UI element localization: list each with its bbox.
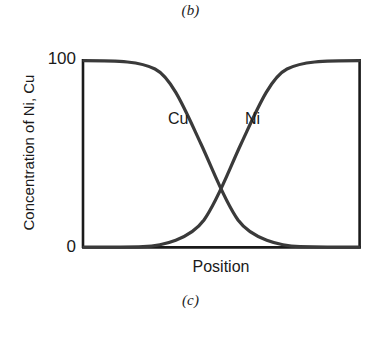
y-tick-label-100: 100	[48, 49, 76, 69]
curve-label-ni: Ni	[245, 110, 260, 128]
x-axis-label: Position	[82, 258, 360, 276]
figure-container: (b) 100 0 Concentration of Ni, Cu Positi…	[0, 0, 381, 339]
curve-cu	[84, 61, 359, 248]
curve-ni	[84, 61, 359, 248]
figure-caption-top: (b)	[0, 2, 381, 19]
y-tick-label-0: 0	[67, 237, 76, 257]
plot-area: 100 0 Concentration of Ni, Cu Position C…	[0, 40, 381, 285]
y-axis-label: Concentration of Ni, Cu	[20, 53, 37, 253]
curve-label-cu: Cu	[168, 110, 188, 128]
figure-caption-bottom: (c)	[0, 292, 381, 309]
chart-svg	[0, 40, 381, 285]
